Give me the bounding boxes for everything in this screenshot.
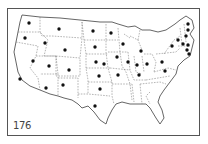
state-dot	[61, 83, 64, 86]
state-dot	[67, 68, 70, 71]
state-dot	[186, 22, 189, 25]
state-dot	[160, 60, 163, 63]
state-dot	[139, 49, 142, 52]
state-dot	[31, 59, 34, 62]
state-dot	[126, 60, 129, 63]
state-dot	[185, 48, 188, 51]
state-dot	[47, 64, 50, 67]
state-dots	[18, 21, 190, 107]
state-dot	[98, 87, 101, 90]
figure-number-label: 176	[13, 120, 31, 131]
state-dot	[145, 62, 148, 65]
state-dot	[176, 38, 179, 41]
state-dot	[135, 63, 138, 66]
state-dot	[170, 44, 173, 47]
state-dot	[57, 27, 60, 30]
country-outline	[14, 15, 194, 124]
state-dot	[93, 45, 96, 48]
state-dot	[186, 28, 189, 31]
state-dot	[115, 55, 118, 58]
state-dot	[121, 42, 124, 45]
state-dot	[116, 73, 119, 76]
state-dot	[137, 73, 140, 76]
state-dot	[91, 29, 94, 32]
state-dot	[63, 48, 66, 51]
state-dot	[184, 34, 187, 37]
state-dot	[109, 31, 112, 34]
state-dot	[163, 69, 166, 72]
state-dot	[187, 52, 190, 55]
state-dot	[97, 74, 100, 77]
us-map	[0, 0, 208, 144]
state-dot	[23, 36, 26, 39]
state-dot	[186, 43, 189, 46]
state-dot	[102, 62, 105, 65]
state-dot	[94, 60, 97, 63]
state-dot	[93, 104, 96, 107]
state-dot	[181, 42, 184, 45]
state-dot	[43, 41, 46, 44]
state-dot	[18, 77, 21, 80]
state-dot	[27, 21, 30, 24]
state-dot	[44, 86, 47, 89]
